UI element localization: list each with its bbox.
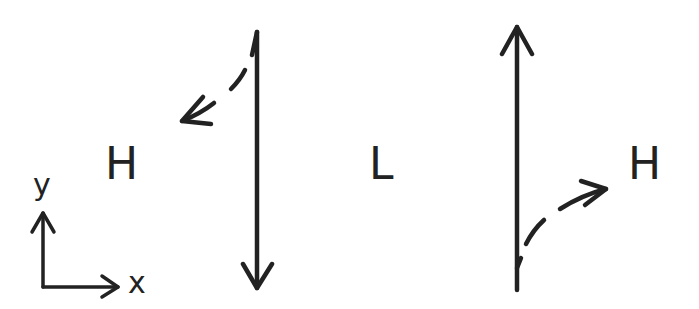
right-deflection-arrow-icon <box>526 181 606 244</box>
left-vertical-arrow-icon <box>243 32 272 288</box>
high-pressure-label-left: H <box>105 142 138 186</box>
high-pressure-label-right: H <box>628 142 661 186</box>
coordinate-axes-icon <box>32 213 118 297</box>
axis-y-label: y <box>33 170 51 200</box>
pressure-diagram: H L H y x <box>0 0 699 309</box>
left-deflection-arrow-icon <box>182 70 245 124</box>
right-vertical-arrow-icon <box>502 27 532 290</box>
axis-x-label: x <box>128 268 146 298</box>
low-pressure-label: L <box>369 142 394 186</box>
